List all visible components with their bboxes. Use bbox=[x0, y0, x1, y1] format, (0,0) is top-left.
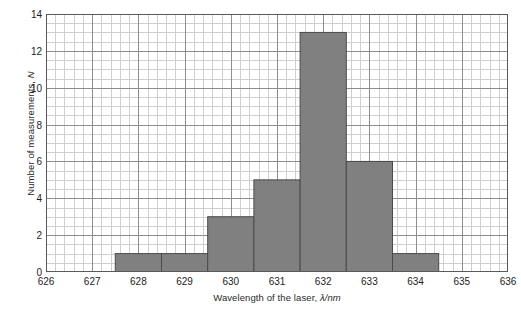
plot-frame bbox=[46, 14, 508, 272]
histogram-chart: Number of measurements, N 02468101214 62… bbox=[0, 0, 521, 314]
x-tick-label: 631 bbox=[257, 276, 297, 287]
x-axis-title: Wavelength of the laser, λ/nm bbox=[46, 292, 508, 303]
x-tick-label: 634 bbox=[396, 276, 436, 287]
x-axis-title-text: Wavelength of the laser, bbox=[213, 292, 320, 303]
x-tick-label: 632 bbox=[303, 276, 343, 287]
x-tick-label: 627 bbox=[72, 276, 112, 287]
y-tick-label: 12 bbox=[4, 45, 42, 56]
y-tick-label: 4 bbox=[4, 193, 42, 204]
x-tick-label: 628 bbox=[118, 276, 158, 287]
x-axis-tick-labels: 626627628629630631632633634635636 bbox=[46, 276, 508, 292]
x-tick-label: 629 bbox=[165, 276, 205, 287]
x-tick-label: 630 bbox=[211, 276, 251, 287]
x-tick-label: 626 bbox=[26, 276, 66, 287]
y-tick-label: 8 bbox=[4, 119, 42, 130]
y-tick-label: 10 bbox=[4, 82, 42, 93]
y-tick-label: 14 bbox=[4, 9, 42, 20]
x-axis-title-symbol: λ/nm bbox=[320, 292, 341, 303]
plot-area bbox=[46, 14, 508, 272]
y-axis-tick-labels: 02468101214 bbox=[0, 14, 42, 272]
y-tick-label: 2 bbox=[4, 230, 42, 241]
x-tick-label: 635 bbox=[442, 276, 482, 287]
y-tick-label: 6 bbox=[4, 156, 42, 167]
x-tick-label: 633 bbox=[349, 276, 389, 287]
x-tick-label: 636 bbox=[488, 276, 521, 287]
